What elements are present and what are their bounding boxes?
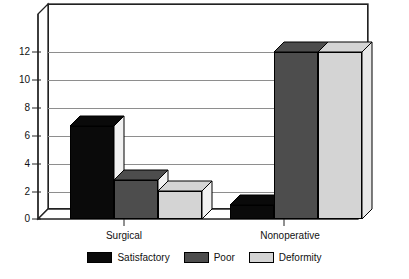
x-tick-label-surgical: Surgical (106, 230, 142, 241)
bar-nonoperative-satisfactory (230, 205, 274, 219)
y-tick-label: 6 (24, 131, 30, 141)
bar-front-face (318, 52, 362, 219)
y-axis: 12 10 8 6 4 2 0 (0, 0, 30, 279)
bar-front-face (114, 180, 158, 219)
legend-label-deformity: Deformity (279, 252, 322, 263)
legend-swatch-deformity (249, 252, 274, 263)
y-tick-label: 2 (24, 187, 30, 197)
bar-surgical-satisfactory (70, 126, 114, 219)
y-tick-label: 10 (19, 75, 30, 85)
legend-item-poor: Poor (184, 252, 235, 263)
bar-top-face (114, 170, 158, 180)
bar-surgical-deformity (158, 191, 202, 219)
bar-top-face (274, 42, 318, 52)
y-tick-label: 12 (19, 47, 30, 57)
bar-top-face (158, 181, 202, 191)
legend-label-satisfactory: Satisfactory (117, 252, 169, 263)
legend-item-satisfactory: Satisfactory (87, 252, 169, 263)
bar-side-face (202, 181, 212, 209)
bar-top-face (318, 42, 362, 52)
legend-label-poor: Poor (214, 252, 235, 263)
bar-side-face (362, 42, 372, 209)
bar-top-face (230, 195, 274, 205)
bar-front-face (230, 205, 274, 219)
bar-nonoperative-deformity (318, 52, 362, 219)
bar-surgical-poor (114, 180, 158, 219)
bar-front-face (274, 52, 318, 219)
bar-front-face (158, 191, 202, 219)
legend-item-deformity: Deformity (249, 252, 322, 263)
legend-swatch-poor (184, 252, 209, 263)
legend-swatch-satisfactory (87, 252, 112, 263)
bar-nonoperative-poor (274, 52, 318, 219)
plot-area (38, 14, 358, 219)
y-tick-label: 4 (24, 159, 30, 169)
bar-chart: 12 10 8 6 4 2 0 Surgical Nonoperative Sa… (0, 0, 409, 279)
y-tick-label: 0 (24, 214, 30, 224)
bar-top-face (70, 116, 114, 126)
chart-legend: Satisfactory Poor Deformity (0, 252, 409, 263)
y-tick-label: 8 (24, 103, 30, 113)
x-tick-label-nonoperative: Nonoperative (260, 230, 319, 241)
bar-front-face (70, 126, 114, 219)
